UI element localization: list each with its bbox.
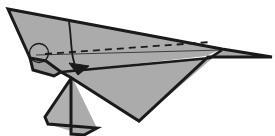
- paper-airplane-figure: [0, 0, 275, 136]
- paper-airplane-illustration: [0, 0, 275, 136]
